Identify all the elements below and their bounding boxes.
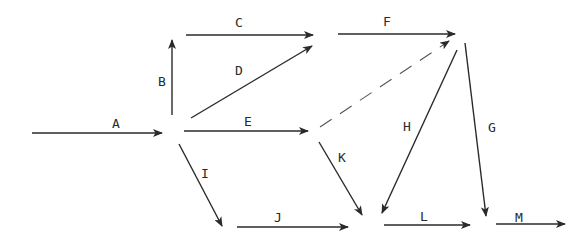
activity-label-b: B — [158, 74, 166, 89]
activity-label-l: L — [420, 209, 428, 224]
activity-label-m: M — [515, 210, 523, 225]
activity-label-f: F — [383, 14, 391, 29]
dummy-activity-arrow — [320, 41, 449, 127]
activity-arrow-d — [191, 46, 312, 118]
labels-layer: ABCDEFGHIJKLM — [112, 14, 523, 225]
activity-label-a: A — [112, 116, 120, 131]
activity-label-h: H — [403, 119, 411, 134]
network-diagram: ABCDEFGHIJKLM — [0, 0, 587, 243]
activity-label-j: J — [274, 210, 282, 225]
activity-arrow-i — [179, 144, 222, 226]
activity-arrow-h — [382, 50, 457, 213]
activity-label-c: C — [235, 15, 243, 30]
activity-label-k: K — [338, 150, 346, 165]
activity-label-d: D — [235, 63, 243, 78]
activity-label-i: I — [201, 166, 209, 181]
activity-label-e: E — [244, 114, 252, 129]
activity-label-g: G — [488, 120, 496, 135]
activity-arrow-g — [465, 43, 486, 216]
